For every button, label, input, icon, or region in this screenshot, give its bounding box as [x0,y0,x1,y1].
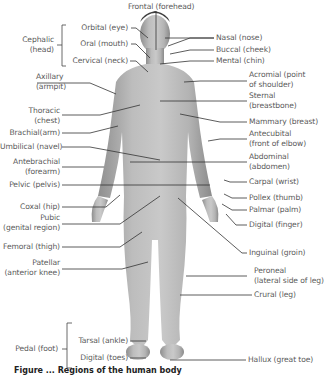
label-carpal: Carpal (wrist) [249,177,299,187]
label-cervical: Cervical (neck) [60,56,128,66]
label-antebrachial-line2: (forearm) [0,167,60,177]
label-cephalic-line1: Cephalic [10,35,54,45]
label-brachial: Brachial(arm) [0,128,60,138]
label-pelvic: Pelvic (pelvis) [0,180,60,190]
label-palmar: Palmar (palm) [249,205,301,215]
label-axillary-line1: Axillary [36,72,66,82]
label-antebrachial: Antebrachial (forearm) [0,157,60,177]
label-patellar-line1: Patellar [0,258,60,268]
label-digital-toes: Digital (toes) [70,353,128,363]
label-axillary-line2: (armpit) [36,82,66,92]
label-mammary: Mammary (breast) [249,117,318,127]
label-peroneal: Peroneal (lateral side of leg) [254,266,324,286]
label-abdominal-line1: Abdominal [249,152,290,162]
label-peroneal-line2: (lateral side of leg) [254,276,324,286]
figure-caption: Figure ... Regions of the human body [14,366,182,375]
label-patellar: Patellar (anterior knee) [0,258,60,278]
label-pubic: Pubic (genital region) [0,213,60,233]
label-sternal-line1: Sternal [249,91,297,101]
label-femoral: Femoral (thigh) [0,242,60,252]
label-orbital: Orbital (eye) [68,23,128,33]
label-acromial: Acromial (point of shoulder) [249,70,305,90]
label-sternal: Sternal (breastbone) [249,91,297,111]
label-cephalic: Cephalic (head) [10,35,54,55]
label-thoracic-line2: (chest) [10,116,60,126]
label-nasal: Nasal (nose) [216,33,262,43]
label-buccal: Buccal (cheek) [216,45,271,55]
label-digital-finger: Digital (finger) [249,220,303,230]
label-oral: Oral (mouth) [68,39,128,49]
label-crural: Crural (leg) [254,290,296,300]
label-antecubital-line2: (front of elbow) [249,139,306,149]
label-pedal: Pedal (foot) [0,344,58,354]
label-antecubital-line1: Antecubital [249,129,306,139]
label-pollex: Pollex (thumb) [249,193,303,203]
label-abdominal-line2: (abdomen) [249,162,290,172]
label-acromial-line2: of shoulder) [249,80,305,90]
label-tarsal: Tarsal (ankle) [70,336,128,346]
label-mental: Mental (chin) [216,56,265,66]
label-patellar-line2: (anterior knee) [0,268,60,278]
label-abdominal: Abdominal (abdomen) [249,152,290,172]
label-inguinal: Inguinal (groin) [249,248,305,258]
label-antecubital: Antecubital (front of elbow) [249,129,306,149]
label-axillary: Axillary (armpit) [36,72,66,92]
label-thoracic-line1: Thoracic [10,106,60,116]
label-peroneal-line1: Peroneal [254,266,324,276]
label-frontal: Frontal (forehead) [128,2,194,12]
label-cephalic-line2: (head) [10,45,54,55]
label-pubic-line2: (genital region) [0,223,60,233]
label-acromial-line1: Acromial (point [249,70,305,80]
label-antebrachial-line1: Antebrachial [0,157,60,167]
label-sternal-line2: (breastbone) [249,101,297,111]
label-thoracic: Thoracic (chest) [10,106,60,126]
label-coxal: Coxal (hip) [0,202,60,212]
label-hallux: Hallux (great toe) [248,355,313,365]
label-pubic-line1: Pubic [0,213,60,223]
label-umbilical: Umbilical (navel) [0,142,60,152]
